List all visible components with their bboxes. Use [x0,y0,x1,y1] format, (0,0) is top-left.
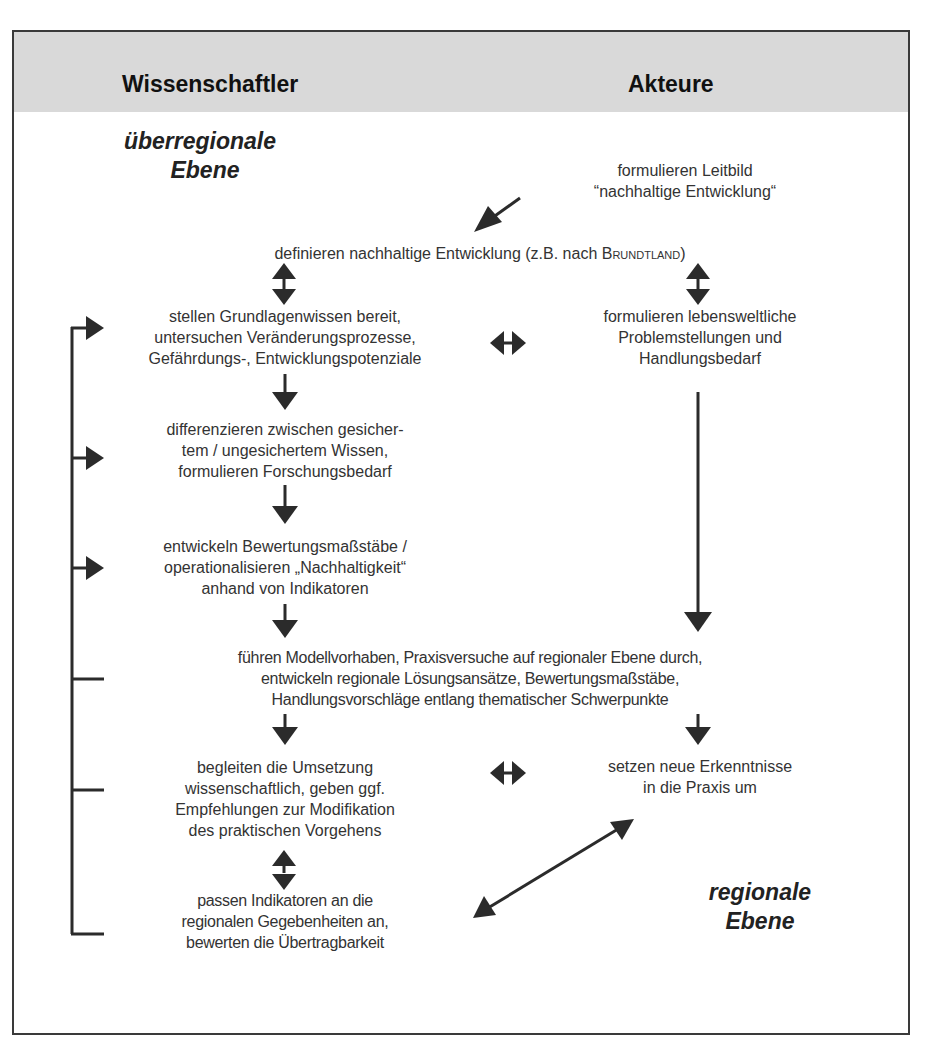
arrow-down-icon [685,714,711,745]
double-arrow-horizontal-icon [490,761,526,785]
arrow-down-icon [272,714,298,745]
double-arrow-horizontal-icon [490,331,526,355]
bracket-arrow-right-icon [86,556,104,580]
double-arrow-vertical-icon [272,263,296,305]
double-arrow-vertical-icon [272,850,296,890]
feedback-bracket-icon [71,327,104,934]
arrow-down-icon [272,485,298,524]
double-arrow-diagonal-icon [473,819,634,918]
arrow-down-icon [272,604,298,638]
double-arrow-vertical-icon [686,263,710,305]
arrow-leitbild-to-definieren-icon [474,198,520,232]
arrow-down-long-icon [684,392,712,632]
arrows-layer [0,0,940,1044]
bracket-arrow-right-icon [86,446,104,470]
arrow-down-icon [272,374,298,410]
bracket-arrow-right-icon [86,316,104,340]
